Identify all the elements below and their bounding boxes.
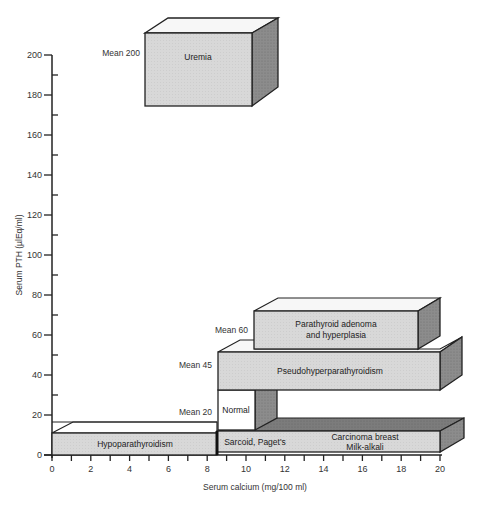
y-tick-label: 40 bbox=[32, 370, 42, 380]
y-tick-label: 60 bbox=[32, 330, 42, 340]
x-tick-label: 0 bbox=[49, 464, 54, 474]
box-label-pseudo: Pseudohyperparathyroidism bbox=[277, 366, 383, 376]
mean-label-uremia: Mean 200 bbox=[102, 48, 140, 58]
box-top bbox=[52, 422, 217, 433]
box-label-carcinoma: Carcinoma breast bbox=[331, 432, 399, 442]
x-tick-label: 18 bbox=[396, 464, 406, 474]
mean-label-normal: Mean 20 bbox=[179, 407, 212, 417]
y-tick-label: 120 bbox=[27, 210, 42, 220]
y-tick-label: 140 bbox=[27, 170, 42, 180]
x-axis-ticks: 02468101214161820 bbox=[49, 455, 445, 474]
box-label-normal: Normal bbox=[222, 405, 250, 415]
box-top bbox=[254, 298, 440, 311]
x-tick-label: 10 bbox=[241, 464, 251, 474]
x-axis-title: Serum calcium (mg/100 ml) bbox=[203, 482, 307, 492]
chart-canvas: 020406080100120140160180200 024681012141… bbox=[0, 0, 479, 505]
box-label-adenoma-1: Parathyroid adenoma bbox=[295, 319, 377, 329]
x-axis: 02468101214161820 bbox=[44, 455, 445, 474]
y-tick-label: 180 bbox=[27, 90, 42, 100]
y-tick-label: 200 bbox=[27, 50, 42, 60]
box-label-sarcoid: Sarcoid, Paget's bbox=[224, 437, 286, 447]
x-tick-label: 12 bbox=[280, 464, 290, 474]
box-label-milk-alkali: Milk-alkali bbox=[346, 442, 383, 452]
box-hypoparathyroidism: Hypoparathyroidism bbox=[52, 422, 217, 455]
box-label-uremia: Uremia bbox=[184, 52, 212, 62]
x-tick-label: 16 bbox=[357, 464, 367, 474]
box-uremia: Uremia Mean 200 bbox=[102, 18, 278, 106]
box-front bbox=[145, 33, 252, 106]
y-tick-label: 0 bbox=[37, 450, 42, 460]
mean-label-pseudo: Mean 45 bbox=[179, 360, 212, 370]
y-tick-label: 100 bbox=[27, 250, 42, 260]
y-tick-label: 20 bbox=[32, 410, 42, 420]
box-label-adenoma-2: and hyperplasia bbox=[306, 330, 366, 340]
x-tick-label: 8 bbox=[205, 464, 210, 474]
y-axis: 020406080100120140160180200 bbox=[27, 50, 58, 460]
mean-label-adenoma: Mean 60 bbox=[215, 325, 248, 335]
box-side bbox=[440, 337, 462, 390]
y-tick-label: 160 bbox=[27, 130, 42, 140]
y-axis-ticks: 020406080100120140160180200 bbox=[27, 50, 58, 460]
x-tick-label: 20 bbox=[435, 464, 445, 474]
x-tick-label: 4 bbox=[127, 464, 132, 474]
x-tick-label: 14 bbox=[319, 464, 329, 474]
x-tick-label: 6 bbox=[166, 464, 171, 474]
y-axis-title: Serum PTH (µlEq/ml) bbox=[14, 214, 24, 295]
box-side bbox=[252, 18, 278, 106]
y-tick-label: 80 bbox=[32, 290, 42, 300]
box-label-hypo: Hypoparathyroidism bbox=[97, 439, 173, 449]
x-tick-label: 2 bbox=[88, 464, 93, 474]
